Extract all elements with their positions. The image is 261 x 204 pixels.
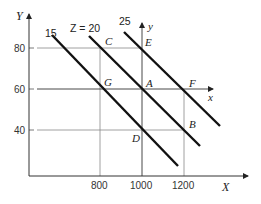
- y-tick-40: 40: [14, 125, 26, 136]
- x-axis-label: X: [221, 180, 230, 194]
- grid-lines: [37, 48, 184, 176]
- point-label-b: B: [189, 118, 196, 130]
- isoline-z15: [52, 35, 178, 166]
- x-tick-1200: 1200: [172, 180, 195, 191]
- y-axis-label: Y: [16, 9, 24, 23]
- isoline-label-20: Z = 20: [70, 22, 100, 34]
- point-label-a: A: [145, 77, 153, 89]
- x-tick-1000: 1000: [130, 180, 153, 191]
- point-label-d: D: [131, 132, 140, 144]
- y-tick-80: 80: [14, 43, 26, 54]
- y-ticks: [29, 48, 34, 130]
- point-label-c: C: [105, 35, 113, 47]
- diagram-canvas: Y X y x 80 60 40 800 1000 1200 15 Z = 20…: [0, 0, 261, 204]
- isoline-z25: [124, 32, 220, 126]
- x-tick-800: 800: [91, 180, 108, 191]
- point-label-f: F: [188, 77, 196, 89]
- isoline-label-15: 15: [45, 27, 57, 39]
- point-label-g: G: [104, 76, 112, 88]
- local-y-axis-label: y: [147, 20, 153, 32]
- point-label-e: E: [144, 36, 152, 48]
- isoline-label-25: 25: [119, 15, 131, 27]
- local-x-axis-label: x: [207, 91, 213, 103]
- y-tick-60: 60: [14, 84, 26, 95]
